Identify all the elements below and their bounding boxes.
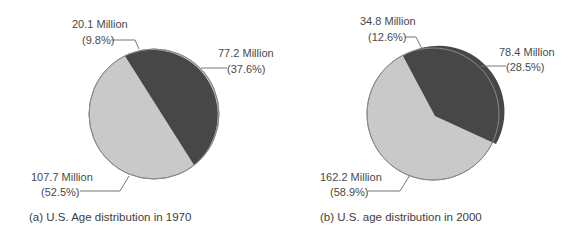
pie-chart-2000: 34.8 Million (12.6%) 78.4 Million (28.5%…	[290, 0, 579, 249]
label-52-5-value: 107.7 Million	[31, 170, 93, 184]
label-37-6-pct: (37.6%)	[227, 62, 266, 76]
label-28-5-pct: (28.5%)	[506, 60, 545, 74]
label-12-6-value: 34.8 Million	[360, 14, 416, 28]
caption-2000: (b) U.S. age distribution in 2000	[320, 211, 482, 223]
leader-line-12-6	[405, 37, 422, 49]
label-9-8-pct: (9.8%)	[82, 33, 114, 47]
label-12-6-pct: (12.6%)	[368, 30, 407, 44]
label-52-5-pct: (52.5%)	[41, 185, 80, 199]
pie-chart-1970: 20.1 Million (9.8%) 77.2 Million (37.6%)…	[0, 0, 290, 249]
label-58-9-pct: (58.9%)	[330, 185, 369, 199]
label-9-8-value: 20.1 Million	[72, 17, 128, 31]
label-37-6-value: 77.2 Million	[218, 46, 274, 60]
label-28-5-value: 78.4 Million	[499, 45, 555, 59]
caption-1970: (a) U.S. Age distribution in 1970	[29, 211, 191, 223]
label-58-9-value: 162.2 Million	[320, 170, 382, 184]
leader-line-9-8	[111, 40, 139, 49]
